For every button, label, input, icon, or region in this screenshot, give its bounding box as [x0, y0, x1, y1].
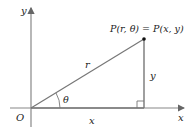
polar-diagram: y x O P(r, θ) = P(x, y) r y x θ	[0, 0, 195, 136]
origin-label: O	[16, 112, 24, 123]
vertical-leg-label: y	[149, 70, 156, 81]
point-label: P(r, θ) = P(x, y)	[109, 23, 184, 34]
point-p	[142, 37, 146, 41]
horizontal-leg-label: x	[89, 115, 95, 126]
y-axis-label: y	[20, 5, 27, 16]
angle-label: θ	[63, 94, 69, 105]
x-axis-label: x	[178, 112, 184, 123]
hypotenuse-r	[31, 39, 144, 108]
hypotenuse-label: r	[85, 59, 91, 70]
angle-arc	[56, 93, 60, 108]
right-angle-marker	[137, 101, 144, 108]
